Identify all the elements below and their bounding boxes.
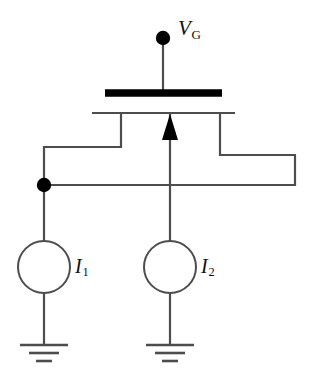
label-current-source-1-subscript: 1: [82, 265, 89, 279]
label-current-source-2-symbol: I: [201, 255, 208, 277]
current-source-2-circle: [144, 241, 196, 293]
label-current-source-2-subscript: 2: [208, 265, 215, 279]
wire-left-terminal: [44, 114, 121, 241]
ground-symbol-1: [20, 345, 68, 361]
circuit-schematic-canvas: [0, 0, 313, 383]
label-current-source-1-symbol: I: [75, 255, 82, 277]
gate-terminal-dot: [156, 31, 170, 45]
junction-dot: [37, 178, 51, 192]
label-current-source-1: I1: [75, 256, 89, 276]
mosfet-symbol-group: [92, 93, 235, 241]
circuit-diagram: VG I1 I2: [0, 0, 313, 383]
current-source-1-group: [18, 241, 70, 345]
left-terminal-wiring-group: [44, 114, 121, 241]
label-gate-voltage: VG: [178, 18, 201, 39]
current-source-1-circle: [18, 241, 70, 293]
label-current-source-2: I2: [201, 256, 215, 276]
label-gate-voltage-subscript: G: [191, 27, 201, 42]
mosfet-bulk-arrow-icon: [162, 114, 178, 140]
current-source-2-group: [144, 241, 196, 345]
gate-branch-group: [156, 31, 170, 91]
ground-symbol-2: [146, 345, 194, 361]
label-gate-voltage-symbol: V: [178, 16, 191, 40]
